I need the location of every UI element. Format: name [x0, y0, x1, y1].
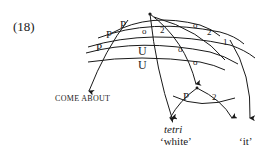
label-o-2: o — [193, 20, 198, 30]
label-u-2: U — [138, 58, 147, 72]
label-o-4: o — [193, 57, 198, 67]
label-2-1: 2 — [160, 25, 165, 35]
arc-4 — [86, 45, 238, 64]
label-p-2: P — [106, 28, 112, 40]
line-node-to-subnode — [150, 14, 196, 84]
label-come-about: COME ABOUT — [55, 94, 110, 103]
subnode-label-2: 2 — [212, 92, 217, 102]
subnode-label-p: P — [183, 90, 189, 102]
label-2-2: 2 — [207, 27, 212, 37]
label-white: ‘white’ — [160, 135, 192, 147]
label-o-3: o — [178, 44, 183, 54]
label-1: 1 — [223, 37, 228, 47]
line-to-it — [230, 40, 250, 118]
sub-node-dot — [196, 87, 199, 90]
label-o-1: o — [142, 26, 147, 36]
dependency-diagram: P P P U U o 2 o 2 o 1 o P 2 — [0, 0, 265, 154]
label-it: ‘it’ — [239, 135, 252, 147]
label-tetri: tetri — [164, 123, 182, 135]
label-p-3: P — [96, 41, 102, 53]
top-node-dot — [148, 12, 151, 15]
label-p-1: P — [120, 18, 126, 30]
label-u-1: U — [138, 44, 147, 58]
